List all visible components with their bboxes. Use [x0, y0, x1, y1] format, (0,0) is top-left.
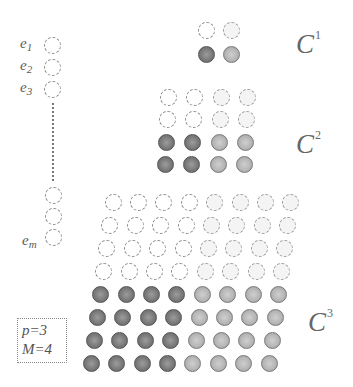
label-c3: C3 [308, 306, 333, 338]
cell-circle [171, 263, 188, 280]
cell-circle [225, 240, 242, 257]
cell-circle [168, 286, 185, 303]
cell-circle [114, 309, 131, 326]
cell-circle [245, 286, 262, 303]
cell-circle [86, 332, 103, 349]
element-circle [45, 187, 62, 204]
cell-circle [188, 332, 205, 349]
cell-circle [149, 240, 166, 257]
cell-circle [121, 263, 138, 280]
cell-circle [159, 111, 176, 128]
cell-circle [261, 355, 278, 372]
cell-circle [111, 332, 128, 349]
label-c3-base: C [308, 307, 326, 337]
diagram-canvas: e1 e2 e3 em C1 C2 C3 p=3 M=4 [0, 0, 353, 387]
label-e2-base: e [20, 57, 27, 73]
label-c2-base: C [296, 129, 314, 159]
cell-circle [197, 263, 214, 280]
cell-circle [183, 156, 200, 173]
cell-circle [223, 46, 240, 63]
cell-circle [241, 309, 258, 326]
element-circle [45, 208, 62, 225]
cell-circle [211, 134, 228, 151]
cell-circle [276, 240, 293, 257]
cell-circle [146, 263, 163, 280]
cell-circle [254, 217, 271, 234]
cell-circle [137, 332, 154, 349]
cell-circle [143, 286, 160, 303]
cell-circle [178, 217, 195, 234]
cell-circle [140, 309, 157, 326]
cell-circle [127, 217, 144, 234]
cell-circle [130, 194, 147, 211]
cell-circle [92, 286, 109, 303]
cell-circle [248, 263, 265, 280]
label-e3-sub: 3 [27, 85, 33, 97]
cell-circle [238, 111, 255, 128]
cell-circle [279, 217, 296, 234]
cell-circle [152, 217, 169, 234]
cell-circle [232, 194, 249, 211]
label-e2-sub: 2 [27, 63, 33, 75]
cell-circle [200, 240, 217, 257]
cell-circle [198, 22, 215, 39]
cell-circle [257, 194, 274, 211]
param-p: p=3 [22, 321, 62, 340]
cell-circle [206, 194, 223, 211]
label-c1-base: C [296, 29, 314, 59]
cell-circle [282, 194, 299, 211]
cell-circle [186, 89, 203, 106]
cell-circle [118, 286, 135, 303]
cell-circle [160, 89, 177, 106]
cell-circle [270, 286, 287, 303]
label-e1-sub: 1 [27, 41, 33, 53]
cell-circle [237, 134, 254, 151]
cell-circle [210, 355, 227, 372]
cell-circle [236, 156, 253, 173]
cell-circle [191, 309, 208, 326]
cell-circle [235, 355, 252, 372]
cell-circle [213, 89, 230, 106]
cell-circle [203, 217, 220, 234]
parameter-box: p=3 M=4 [17, 318, 67, 363]
label-em-sub: m [29, 238, 37, 250]
cell-circle [83, 355, 100, 372]
label-em: em [22, 232, 37, 250]
cell-circle [216, 309, 233, 326]
cell-circle [165, 309, 182, 326]
cell-circle [194, 286, 211, 303]
label-e1-base: e [20, 35, 27, 51]
param-m: M=4 [22, 340, 62, 359]
cell-circle [185, 111, 202, 128]
label-c3-sup: 3 [327, 306, 333, 320]
cell-circle [228, 217, 245, 234]
element-circle [44, 59, 61, 76]
cell-circle [158, 134, 175, 151]
cell-circle [212, 111, 229, 128]
vertical-ellipsis [52, 103, 54, 181]
cell-circle [184, 134, 201, 151]
cell-circle [159, 355, 176, 372]
cell-circle [155, 194, 172, 211]
label-e1: e1 [20, 35, 32, 53]
cell-circle [223, 22, 240, 39]
cell-circle [181, 194, 198, 211]
cell-circle [267, 309, 284, 326]
label-em-base: e [22, 232, 29, 248]
label-c1-sup: 1 [315, 28, 321, 42]
cell-circle [134, 355, 151, 372]
label-c2-sup: 2 [315, 128, 321, 142]
cell-circle [210, 156, 227, 173]
label-e3-base: e [20, 79, 27, 95]
cell-circle [219, 286, 236, 303]
element-circle [44, 37, 61, 54]
cell-circle [222, 263, 239, 280]
element-circle [44, 81, 61, 98]
cell-circle [184, 355, 201, 372]
cell-circle [264, 332, 281, 349]
cell-circle [95, 263, 112, 280]
cell-circle [101, 217, 118, 234]
cell-circle [175, 240, 192, 257]
cell-circle [238, 332, 255, 349]
cell-circle [162, 332, 179, 349]
